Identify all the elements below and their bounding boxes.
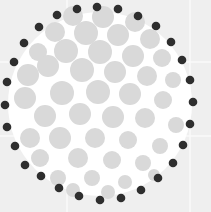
light-dot: [20, 128, 40, 148]
light-dot: [119, 83, 141, 105]
light-dot: [69, 103, 91, 125]
light-dot: [102, 106, 124, 128]
dark-dot: [37, 172, 46, 181]
dark-dot: [179, 141, 188, 150]
light-dot: [68, 148, 88, 168]
light-dot: [45, 22, 65, 42]
light-dot: [14, 87, 36, 109]
dark-dot: [1, 101, 10, 110]
light-dot: [154, 91, 172, 109]
dark-dot: [189, 98, 198, 107]
light-dot: [135, 108, 155, 128]
light-dot: [85, 128, 105, 148]
dark-dot: [55, 184, 64, 193]
dark-dot: [186, 120, 195, 129]
light-dot: [118, 175, 132, 189]
dark-dot: [3, 78, 12, 87]
dark-dot: [35, 23, 44, 32]
light-dot: [103, 151, 121, 169]
dot-pattern-svg: [0, 0, 211, 212]
dark-dot: [167, 38, 176, 47]
dark-dot: [3, 123, 12, 132]
dark-dot: [117, 194, 126, 203]
dark-dot: [169, 159, 178, 168]
light-dot: [88, 40, 112, 64]
light-dot: [34, 105, 56, 127]
dark-dot: [114, 5, 123, 14]
light-dot: [168, 117, 184, 133]
light-dot: [135, 155, 151, 171]
dark-dot: [53, 11, 62, 20]
dark-dot: [134, 12, 143, 21]
dark-dot: [137, 186, 146, 195]
light-dot: [137, 66, 157, 86]
light-dot: [101, 185, 115, 199]
dark-dot: [20, 39, 29, 48]
light-dot: [107, 24, 129, 46]
dark-dot: [10, 58, 19, 67]
light-dot: [37, 55, 59, 77]
light-dot: [50, 170, 66, 186]
dark-dot: [96, 196, 105, 205]
light-dot: [49, 127, 71, 149]
light-dot: [119, 131, 137, 149]
dark-dot: [73, 5, 82, 14]
light-dot: [70, 58, 94, 82]
light-dot: [50, 81, 74, 105]
dot-circle-graphic: [0, 0, 211, 212]
light-dot: [31, 149, 49, 167]
light-dot: [152, 138, 168, 154]
dark-dot: [75, 192, 84, 201]
light-dot: [86, 80, 110, 104]
light-dot: [84, 170, 100, 186]
light-dot: [165, 72, 181, 88]
dark-dot: [186, 76, 195, 85]
light-dot: [122, 45, 144, 67]
dark-dot: [21, 161, 30, 170]
light-dot: [140, 29, 160, 49]
light-dot: [54, 39, 78, 63]
light-dot: [17, 64, 39, 86]
light-dot: [104, 61, 126, 83]
dark-dot: [11, 142, 20, 151]
dark-dot: [93, 3, 102, 12]
dark-dot: [152, 22, 161, 31]
light-dot: [153, 49, 171, 67]
dark-dot: [178, 56, 187, 65]
dark-dot: [154, 174, 163, 183]
